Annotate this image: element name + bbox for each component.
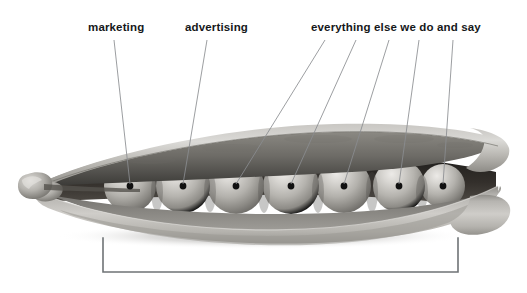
bottom-bracket xyxy=(103,238,458,272)
annotation-layer xyxy=(0,0,527,293)
leader-lines xyxy=(114,40,453,184)
leader-line-everything-2 xyxy=(291,40,356,184)
leader-line-everything-5 xyxy=(443,40,453,184)
illustration-canvas: marketing advertising everything else we… xyxy=(0,0,527,293)
leader-line-everything-1 xyxy=(236,40,325,184)
leader-line-marketing xyxy=(114,40,130,184)
leader-line-everything-3 xyxy=(344,40,389,184)
leader-line-advertising xyxy=(183,40,207,184)
leader-line-everything-4 xyxy=(399,40,419,184)
